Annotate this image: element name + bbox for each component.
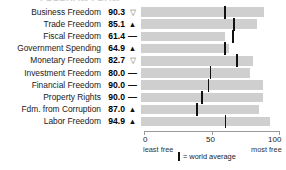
trend-flat-icon: — <box>125 69 140 78</box>
bar-track <box>140 67 282 79</box>
chart-row: Government Spending64.9▲ <box>0 43 286 55</box>
chart-row: Property Rights90.0— <box>0 91 286 103</box>
trend-down-icon: ▽ <box>125 8 140 17</box>
score-value: 90.0 <box>104 93 125 102</box>
axis-label-100: 100 <box>268 135 281 144</box>
world-average-marker-icon <box>178 152 180 161</box>
cropped-title-remnant: FREEDOM FROM <box>40 0 240 1</box>
score-bar <box>141 7 264 17</box>
category-label: Property Rights <box>0 93 104 102</box>
score-value: 85.1 <box>104 20 125 29</box>
world-average-tick <box>196 103 198 116</box>
category-label: Financial Freedom <box>0 81 104 90</box>
category-label: Investment Freedom <box>0 69 104 78</box>
world-average-tick <box>224 42 226 55</box>
score-bar <box>141 19 257 29</box>
bar-track <box>140 91 282 103</box>
score-bar <box>141 68 250 78</box>
chart-row: Business Freedom90.3▽ <box>0 6 286 18</box>
bar-track <box>140 104 282 116</box>
category-label: Government Spending <box>0 44 104 53</box>
world-average-tick <box>210 66 212 79</box>
bar-track <box>140 43 282 55</box>
axis-caption-most-free: most free <box>251 145 282 154</box>
score-value: 90.3 <box>104 8 125 17</box>
world-average-tick <box>224 6 226 19</box>
chart-rows: Business Freedom90.3▽Trade Freedom85.1▲F… <box>0 6 286 128</box>
chart-row: Financial Freedom90.0— <box>0 79 286 91</box>
score-bar <box>141 32 225 42</box>
score-value: 94.9 <box>104 117 125 126</box>
axis-tick-50 <box>212 131 213 135</box>
bar-track <box>140 30 282 42</box>
world-average-tick <box>233 18 235 31</box>
world-average-tick <box>208 79 210 92</box>
score-bar <box>141 80 263 90</box>
score-bar <box>141 105 259 115</box>
axis-tick-0 <box>144 131 145 135</box>
legend: = world average <box>178 152 236 161</box>
trend-up-icon: ▲ <box>125 20 140 29</box>
axis-caption-least-free: least free <box>143 145 173 154</box>
chart-row: Trade Freedom85.1▲ <box>0 18 286 30</box>
trend-flat-icon: — <box>125 32 140 41</box>
category-label: Fdm. from Corruption <box>0 105 104 114</box>
score-bar <box>141 44 229 54</box>
freedom-index-chart: FREEDOM FROM Business Freedom90.3▽Trade … <box>0 0 286 170</box>
score-value: 87.0 <box>104 105 125 114</box>
axis-label-50: 50 <box>206 135 215 144</box>
chart-row: Monetary Freedom82.7▽ <box>0 55 286 67</box>
bar-track <box>140 55 282 67</box>
category-label: Business Freedom <box>0 8 104 17</box>
legend-label-world-average: = world average <box>183 152 236 161</box>
bar-track <box>140 18 282 30</box>
trend-up-icon: ▲ <box>125 105 140 114</box>
trend-up-icon: ▲ <box>125 117 140 126</box>
bar-track <box>140 116 282 128</box>
category-label: Trade Freedom <box>0 20 104 29</box>
score-bar <box>141 117 270 127</box>
score-value: 80.0 <box>104 69 125 78</box>
world-average-tick <box>236 54 238 67</box>
bar-track <box>140 6 282 18</box>
score-value: 90.0 <box>104 81 125 90</box>
category-label: Fiscal Freedom <box>0 32 104 41</box>
trend-flat-icon: — <box>125 81 140 90</box>
score-value: 64.9 <box>104 44 125 53</box>
chart-row: Investment Freedom80.0— <box>0 67 286 79</box>
category-label: Monetary Freedom <box>0 56 104 65</box>
score-value: 82.7 <box>104 56 125 65</box>
score-value: 61.4 <box>104 32 125 41</box>
chart-row: Fiscal Freedom61.4— <box>0 30 286 42</box>
world-average-tick <box>201 91 203 104</box>
axis-tick-100 <box>279 131 280 135</box>
chart-row: Labor Freedom94.9▲ <box>0 116 286 128</box>
trend-up-icon: ▲ <box>125 44 140 53</box>
category-label: Labor Freedom <box>0 117 104 126</box>
trend-down-icon: ▽ <box>125 56 140 65</box>
world-average-tick <box>232 30 234 43</box>
trend-flat-icon: — <box>125 93 140 102</box>
axis-label-0: 0 <box>143 135 147 144</box>
bar-track <box>140 79 282 91</box>
chart-row: Fdm. from Corruption87.0▲ <box>0 104 286 116</box>
world-average-tick <box>225 115 227 128</box>
